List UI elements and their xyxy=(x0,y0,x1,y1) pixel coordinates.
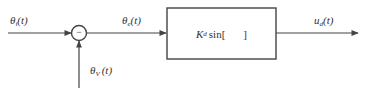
input-signal-label: θi(t) xyxy=(10,14,28,30)
block-function: sin[ xyxy=(209,28,226,40)
minus-sign: − xyxy=(73,27,85,39)
block-gain-subscript: d xyxy=(203,30,207,38)
output-arg: (t) xyxy=(323,14,333,26)
feedback-subscript: V xyxy=(95,70,99,78)
phase-detector-block-diagram: − θi(t) θe(t) θV(t) ud(t) Kdsin[] xyxy=(0,0,370,92)
output-signal-label: ud(t) xyxy=(314,14,333,30)
block-gain: K xyxy=(196,28,203,40)
feedback-signal-label: θV(t) xyxy=(90,64,112,80)
input-arg: (t) xyxy=(17,14,27,26)
error-signal-label: θe(t) xyxy=(122,14,141,30)
gain-block-label: Kdsin[] xyxy=(167,8,276,59)
feedback-arg: (t) xyxy=(102,64,112,76)
block-close-bracket: ] xyxy=(243,28,247,40)
error-arg: (t) xyxy=(131,14,141,26)
